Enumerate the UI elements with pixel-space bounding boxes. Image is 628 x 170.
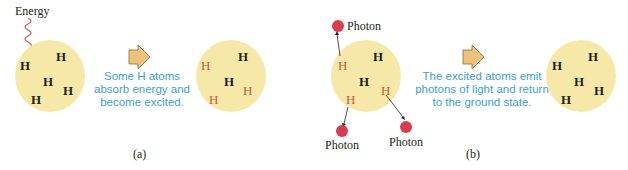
panel-b-sublabel: (b) [466, 147, 480, 162]
hydrogen-atom-ground: H [561, 93, 571, 106]
hydrogen-atom-ground: H [588, 50, 598, 63]
hydrogen-atom-ground: H [594, 84, 604, 97]
hydrogen-atom-ground: H [574, 75, 584, 88]
hydrogen-atom-ground: H [552, 59, 562, 72]
emission-caption: The excited atoms emit photons of light … [412, 70, 552, 109]
